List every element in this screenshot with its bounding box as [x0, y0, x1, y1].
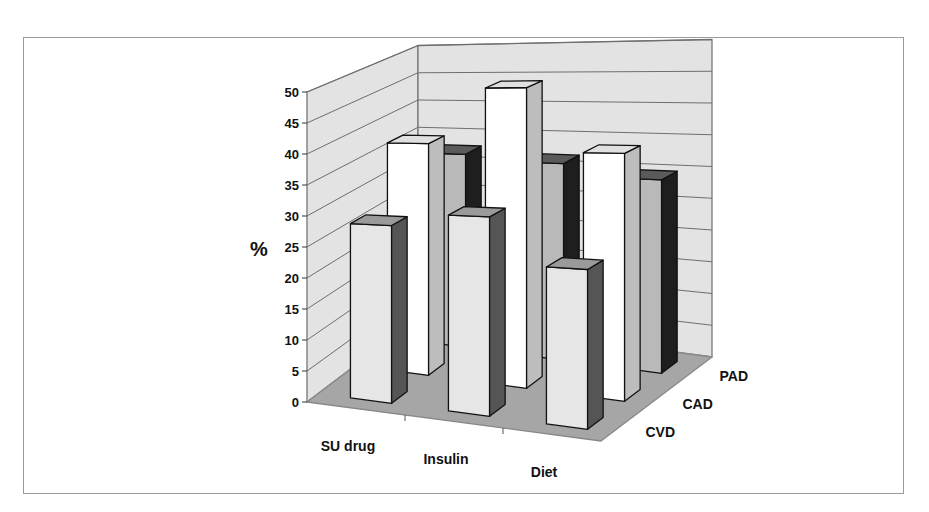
- bar-side: [392, 217, 408, 404]
- depth-label: CVD: [646, 424, 676, 440]
- y-tick-label: 45: [285, 116, 299, 131]
- bar-side: [527, 81, 543, 389]
- bar-front: [350, 224, 391, 404]
- y-tick-label: 25: [285, 240, 299, 255]
- category-label: Insulin: [423, 451, 468, 467]
- bar-CVD-su-drug: [350, 215, 407, 404]
- bar-side: [588, 260, 604, 429]
- y-tick-label: 15: [285, 302, 299, 317]
- bar-side: [429, 136, 445, 376]
- bar-CVD-diet: [546, 258, 603, 430]
- bar-front: [546, 267, 587, 429]
- category-label: Diet: [531, 464, 558, 480]
- y-tick-label: 10: [285, 333, 299, 348]
- y-tick-label: 30: [285, 209, 299, 224]
- bar-side: [490, 208, 506, 416]
- y-tick-label: 50: [285, 85, 299, 100]
- y-tick-label: 0: [292, 395, 299, 410]
- y-tick-label: 20: [285, 271, 299, 286]
- bar-side: [625, 146, 641, 402]
- category-label: SU drug: [321, 438, 375, 454]
- y-tick-label: 35: [285, 178, 299, 193]
- depth-label: PAD: [720, 368, 749, 384]
- y-tick-label: 40: [285, 147, 299, 162]
- y-tick-label: 5: [292, 364, 299, 379]
- bar-CVD-insulin: [448, 207, 505, 417]
- 3d-bar-chart: 05101520253035404550 % SU drugInsulinDie…: [0, 0, 929, 512]
- bar-side: [662, 171, 678, 373]
- depth-label: CAD: [683, 396, 713, 412]
- bar-front: [448, 215, 489, 416]
- y-axis-ticks: 05101520253035404550: [285, 85, 307, 410]
- y-axis-title: %: [250, 238, 268, 260]
